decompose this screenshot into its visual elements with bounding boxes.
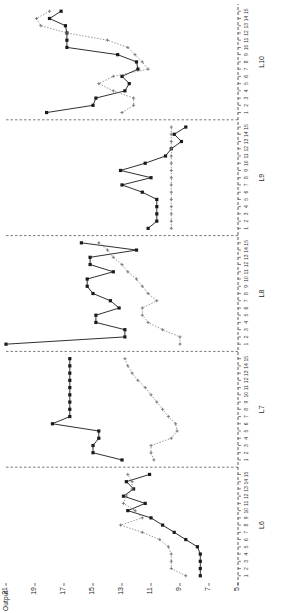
panel-group-label: L10	[258, 4, 265, 120]
y-tick-label: 15	[88, 587, 95, 611]
x-tick-label: 15	[243, 468, 249, 480]
y-tick-label: 9	[175, 587, 182, 611]
panel-group-label: L9	[258, 120, 265, 236]
x-tick-label: 15	[243, 237, 249, 249]
y-tick-label: 19	[30, 587, 37, 611]
chart-figure: Output 211917151311975 12345678910111213…	[0, 0, 284, 613]
y-tick-label: 5	[233, 587, 240, 611]
x-tick-label: 15	[243, 121, 249, 133]
chart-svg	[0, 0, 284, 613]
y-tick-label: 13	[117, 587, 124, 611]
y-tick-label: 11	[146, 587, 153, 611]
rotated-figure-wrapper: Output 211917151311975 12345678910111213…	[0, 0, 284, 613]
plot-area	[0, 0, 284, 613]
y-tick-label: 21	[1, 587, 8, 611]
y-tick-label: 7	[204, 587, 211, 611]
y-tick-label: 17	[59, 587, 66, 611]
x-tick-label: 15	[243, 5, 249, 17]
panel-group-label: L8	[258, 236, 265, 352]
panel-group-label: L6	[258, 467, 265, 583]
panel-group-label: L7	[258, 351, 265, 467]
x-tick-label: 15	[243, 353, 249, 365]
